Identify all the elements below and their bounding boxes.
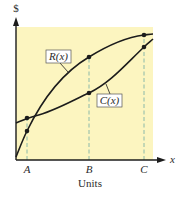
plot-background (16, 27, 153, 160)
tick-b: B (86, 163, 93, 175)
x-axis-label: x (169, 153, 175, 165)
cost-point-b (87, 91, 92, 96)
x-axis-title: Units (78, 177, 102, 189)
revenue-point-b (87, 55, 92, 60)
tick-a: A (23, 163, 31, 175)
revenue-point-c (142, 33, 147, 38)
cost-label: C(x) (100, 94, 120, 107)
chart: R(x) C(x) $ x A B C Units (0, 0, 181, 197)
y-axis-arrow-icon (13, 17, 19, 26)
revenue-point-a (25, 129, 30, 134)
revenue-label: R(x) (48, 50, 68, 63)
y-axis-label: $ (13, 2, 19, 14)
cost-point-c (142, 45, 147, 50)
tick-c: C (140, 163, 148, 175)
x-axis-arrow-icon (157, 157, 166, 163)
cost-point-a (25, 116, 30, 121)
